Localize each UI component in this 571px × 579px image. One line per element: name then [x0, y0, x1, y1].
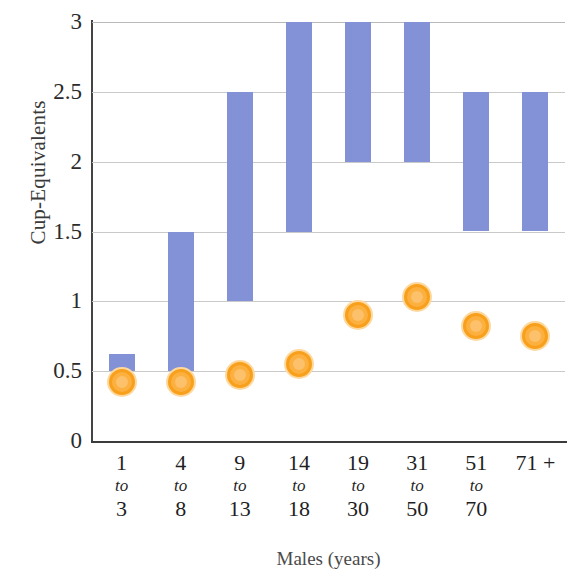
gridline: [92, 22, 565, 23]
y-axis-tick-label: 3: [36, 10, 82, 33]
y-axis-tick-label: 0: [36, 429, 82, 452]
x-tick-line-end: 3: [93, 496, 151, 521]
x-axis-tick-label: 4to8: [152, 450, 210, 521]
x-tick-line-to: to: [388, 475, 446, 496]
x-axis-tick-label: 9to13: [211, 450, 269, 521]
data-point-marker: [227, 362, 253, 388]
x-tick-line-start: 51: [447, 450, 505, 475]
x-tick-line-end: 70: [447, 496, 505, 521]
x-axis-tick-label: 14to18: [270, 450, 328, 521]
range-bar: [345, 22, 371, 162]
data-point-marker: [168, 369, 194, 395]
x-tick-line-end: 30: [329, 496, 387, 521]
x-axis-tick-label: 19to30: [329, 450, 387, 521]
x-tick-line-start: 71 +: [506, 450, 564, 475]
x-axis-line: [91, 441, 567, 443]
y-axis-tick-label: 1.5: [36, 220, 82, 243]
x-tick-line-start: 1: [93, 450, 151, 475]
range-bar: [168, 232, 194, 372]
gridline: [92, 301, 565, 302]
y-axis-tick-label: 0.5: [36, 359, 82, 382]
y-axis-tick-label: 1: [36, 289, 82, 312]
x-axis-tick-label: 71 +: [506, 450, 564, 475]
x-tick-line-end: 8: [152, 496, 210, 521]
range-bar: [522, 92, 548, 232]
x-tick-line-start: 4: [152, 450, 210, 475]
plot-area: [92, 22, 565, 441]
data-point-marker: [286, 351, 312, 377]
gridline: [92, 162, 565, 163]
y-axis-tick-label: 2.5: [36, 80, 82, 103]
x-tick-line-to: to: [329, 475, 387, 496]
data-point-marker: [345, 302, 371, 328]
y-axis-tick-labels: 32.521.510.50: [28, 0, 82, 579]
x-tick-line-start: 19: [329, 450, 387, 475]
data-point-marker: [404, 284, 430, 310]
x-tick-line-to: to: [211, 475, 269, 496]
x-tick-line-end: 13: [211, 496, 269, 521]
range-bar: [286, 22, 312, 232]
x-tick-line-to: to: [447, 475, 505, 496]
gridline: [92, 232, 565, 233]
x-tick-line-start: 14: [270, 450, 328, 475]
x-tick-line-to: to: [152, 475, 210, 496]
x-tick-line-start: 31: [388, 450, 446, 475]
range-bar: [227, 92, 253, 302]
x-tick-line-start: 9: [211, 450, 269, 475]
x-tick-line-to: to: [93, 475, 151, 496]
y-axis-tick-label: 2: [36, 150, 82, 173]
chart-container: Cup-Equivalents 32.521.510.50 1to34to89t…: [0, 0, 571, 579]
x-tick-line-to: to: [270, 475, 328, 496]
x-axis-tick-label: 31to50: [388, 450, 446, 521]
x-axis-tick-labels: 1to34to89to1314to1819to3031to5051to7071 …: [92, 450, 565, 530]
gridline: [92, 92, 565, 93]
range-bar: [463, 92, 489, 232]
x-axis-tick-label: 51to70: [447, 450, 505, 521]
data-point-marker: [463, 313, 489, 339]
x-tick-line-end: 18: [270, 496, 328, 521]
range-bar: [404, 22, 430, 162]
x-axis-title: Males (years): [92, 548, 565, 570]
data-point-marker: [522, 323, 548, 349]
data-point-marker: [109, 369, 135, 395]
x-tick-line-end: 50: [388, 496, 446, 521]
x-axis-tick-label: 1to3: [93, 450, 151, 521]
gridline: [92, 371, 565, 372]
